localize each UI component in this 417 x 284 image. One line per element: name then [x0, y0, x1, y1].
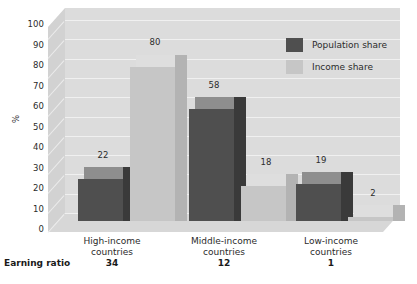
y-tick-20: 20	[33, 184, 44, 193]
plot-area: 22 80 58 18 19 2 Population share Income…	[48, 8, 400, 232]
y-tick-90: 90	[33, 41, 44, 50]
bar-value-low-income-population-share: 19	[296, 156, 346, 165]
y-axis: % 100 90 80 70 60 50 40 30 20 10 0	[0, 0, 48, 284]
y-tick-40: 40	[33, 143, 44, 152]
bar-front-face	[78, 179, 123, 222]
legend-label-population-share: Population share	[312, 40, 387, 50]
legend-item-population-share: Population share	[286, 36, 387, 53]
bar-low-income-population-share	[296, 172, 341, 221]
category-label-line1: Middle-income	[169, 236, 279, 247]
category-label-line2: countries	[169, 247, 279, 258]
y-tick-100: 100	[27, 20, 44, 29]
category-label-middle-income: Middle-income countries	[169, 236, 279, 258]
category-label-line1: High-income	[57, 236, 167, 247]
y-axis-unit-label: %	[11, 115, 21, 123]
bar-value-high-income-income-share: 80	[130, 38, 180, 47]
category-label-line2: countries	[57, 247, 167, 258]
bar-value-middle-income-population-share: 58	[189, 81, 239, 90]
category-label-line1: Low-income	[276, 236, 386, 247]
bar-value-high-income-population-share: 22	[78, 151, 128, 160]
legend-label-income-share: Income share	[312, 62, 373, 72]
legend-item-income-share: Income share	[286, 58, 387, 75]
bar-side-face	[393, 205, 405, 221]
bar-value-middle-income-income-share: 18	[241, 158, 291, 167]
earning-ratio-value-middle-income: 12	[169, 258, 279, 268]
category-label-high-income: High-income countries	[57, 236, 167, 258]
bar-high-income-population-share	[78, 167, 123, 222]
legend: Population share Income share	[286, 36, 387, 80]
earning-ratio-value-high-income: 34	[57, 258, 167, 268]
legend-swatch-icon-population-share	[286, 38, 303, 52]
legend-swatch-icon-income-share	[286, 60, 303, 74]
y-tick-70: 70	[33, 82, 44, 91]
bar-front-face	[189, 109, 234, 221]
y-tick-30: 30	[33, 164, 44, 173]
bar-front-face	[296, 184, 341, 221]
category-label-low-income: Low-income countries	[276, 236, 386, 258]
bar-front-face	[241, 186, 286, 221]
y-tick-0: 0	[38, 225, 44, 234]
y-tick-10: 10	[33, 205, 44, 214]
y-tick-60: 60	[33, 102, 44, 111]
bar-front-face	[348, 217, 393, 221]
bar-front-face	[130, 67, 175, 221]
category-label-line2: countries	[276, 247, 386, 258]
earning-ratio-value-low-income: 1	[276, 258, 386, 268]
y-tick-50: 50	[33, 123, 44, 132]
gridline-100	[65, 20, 400, 21]
bar-side-face	[175, 55, 187, 221]
bar-high-income-income-share	[130, 55, 175, 221]
bar-middle-income-population-share	[189, 97, 234, 221]
bar-low-income-income-share	[348, 205, 393, 221]
bar-middle-income-income-share	[241, 174, 286, 221]
bar-chart: % 100 90 80 70 60 50 40 30 20 10 0	[0, 0, 417, 284]
bar-value-low-income-income-share: 2	[348, 189, 398, 198]
y-tick-80: 80	[33, 61, 44, 70]
